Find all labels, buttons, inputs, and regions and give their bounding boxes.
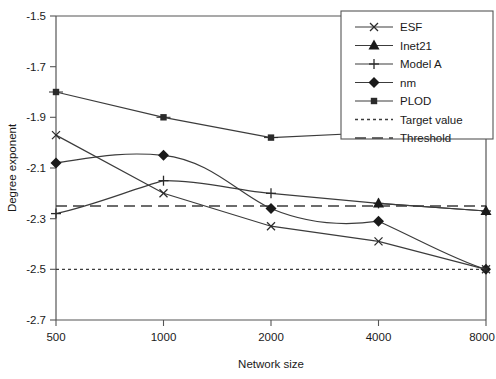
y-tick-label: -2.1 (26, 162, 46, 174)
legend-label: ESF (400, 21, 422, 33)
star-marker (371, 98, 377, 104)
x-tick-label: 2000 (258, 331, 284, 343)
y-tick-label: -2.7 (26, 314, 46, 326)
y-axis-title: Degree exponent (6, 123, 18, 212)
legend-label: nm (400, 77, 416, 89)
chart-figure: -1.5 -1.7 -1.9 -2.1 -2.3 -2.5 -2.7 500 1… (0, 0, 496, 379)
chart-legend: ESF Inet21 Model A nm (341, 11, 493, 144)
legend-label: Target value (400, 114, 463, 126)
x-tick-label: 8000 (469, 331, 495, 343)
x-tick-label: 1000 (151, 331, 177, 343)
y-tick-label: -1.9 (26, 111, 46, 123)
x-tick-label: 4000 (366, 331, 392, 343)
legend-label: Threshold (400, 132, 451, 144)
y-tick-label: -2.3 (26, 213, 46, 225)
legend-label: PLOD (400, 95, 431, 107)
y-tick-label: -2.5 (26, 263, 46, 275)
degree-exponent-line-chart: -1.5 -1.7 -1.9 -2.1 -2.3 -2.5 -2.7 500 1… (0, 0, 496, 379)
x-axis-title: Network size (238, 358, 304, 370)
y-tick-label: -1.7 (26, 61, 46, 73)
legend-label: Inet21 (400, 40, 432, 52)
legend-label: Model A (400, 58, 442, 70)
y-tick-label: -1.5 (26, 10, 46, 22)
x-tick-label: 500 (46, 331, 65, 343)
